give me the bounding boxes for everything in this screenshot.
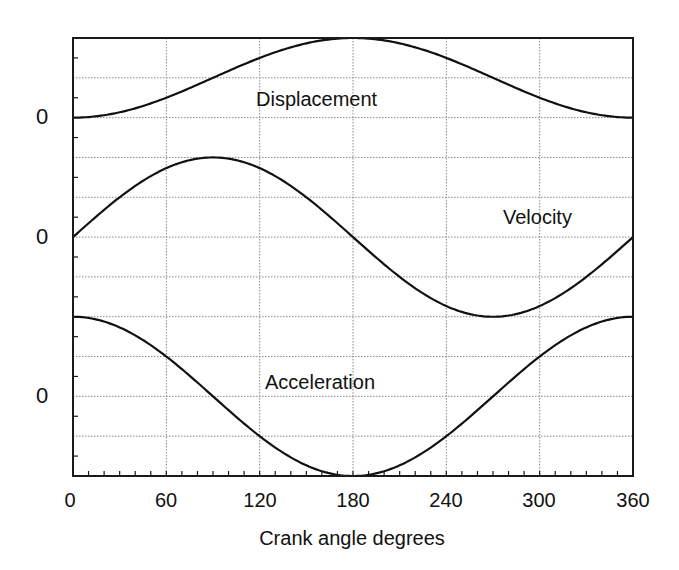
x-tick-label: 240 (429, 489, 462, 511)
x-tick-label: 60 (155, 489, 177, 511)
x-tick-label: 360 (616, 489, 649, 511)
acceleration-zero-label: 0 (36, 383, 48, 408)
x-axis-title: Crank angle degrees (259, 527, 445, 549)
x-tick-label: 300 (522, 489, 555, 511)
velocity-zero-label: 0 (36, 224, 48, 249)
axis-ticks (73, 58, 617, 476)
x-tick-label: 180 (336, 489, 369, 511)
x-tick-label: 120 (243, 489, 276, 511)
velocity-label: Velocity (503, 206, 572, 228)
displacement-zero-label: 0 (36, 104, 48, 129)
acceleration-label: Acceleration (265, 371, 375, 393)
x-tick-labels: 0 60 120 180 240 300 360 (64, 489, 649, 511)
displacement-label: Displacement (256, 88, 378, 110)
crank-kinematics-chart: Displacement Velocity Acceleration 0 0 0… (0, 0, 679, 570)
x-tick-label: 0 (64, 489, 75, 511)
